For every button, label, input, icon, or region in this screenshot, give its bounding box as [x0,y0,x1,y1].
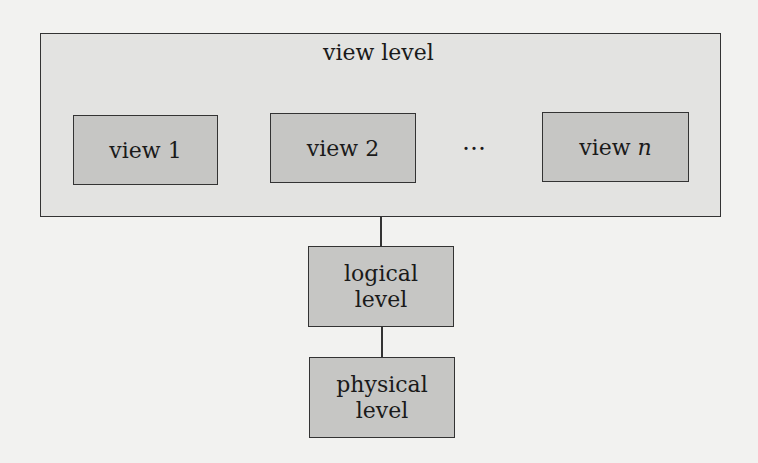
view-n-prefix: view [579,135,637,160]
ellipsis: … [462,128,486,156]
view-2-box: view 2 [270,113,416,183]
physical-level-line1: physical [336,372,427,397]
physical-level-line2: level [356,398,409,423]
view-level-title: view level [323,40,434,65]
logical-level-line2: level [355,287,408,312]
logical-level-line1: logical [344,261,418,286]
connector-view-logical [380,217,382,247]
view-n-variable: n [638,135,652,160]
view-2-label: view 2 [307,136,379,161]
physical-level-box: physical level [309,357,455,438]
view-1-label: view 1 [109,138,181,163]
connector-logical-physical [381,327,383,357]
view-n-box: view n [542,112,689,182]
view-1-box: view 1 [73,115,218,185]
logical-level-box: logical level [308,246,454,327]
view-n-label: view n [579,135,651,160]
